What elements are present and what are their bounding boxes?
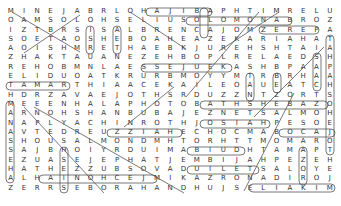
grid-letter[interactable]: Z [203,174,216,183]
grid-letter[interactable]: A [84,91,97,100]
grid-letter[interactable]: U [164,16,177,25]
grid-letter[interactable]: M [323,184,336,193]
grid-letter[interactable]: J [164,156,177,165]
grid-letter[interactable]: C [84,119,97,128]
grid-letter[interactable]: I [57,174,70,183]
grid-letter[interactable]: O [243,16,256,25]
grid-letter[interactable]: B [137,26,150,35]
grid-letter[interactable]: H [164,128,177,137]
grid-letter[interactable]: R [297,174,310,183]
grid-letter[interactable]: M [270,7,283,16]
grid-letter[interactable]: S [44,44,57,53]
grid-letter[interactable]: H [31,174,44,183]
grid-letter[interactable]: A [124,184,137,193]
grid-letter[interactable]: A [137,156,150,165]
grid-letter[interactable]: O [150,100,163,109]
grid-letter[interactable]: M [243,128,256,137]
grid-letter[interactable]: O [110,137,123,146]
grid-letter[interactable]: A [70,7,83,16]
grid-letter[interactable]: A [243,156,256,165]
grid-letter[interactable]: M [31,16,44,25]
grid-letter[interactable]: N [110,53,123,62]
grid-letter[interactable]: D [270,174,283,183]
grid-letter[interactable]: A [17,146,30,155]
grid-letter[interactable]: H [17,53,30,62]
grid-letter[interactable]: T [310,91,323,100]
grid-letter[interactable]: B [124,109,137,118]
grid-letter[interactable]: I [270,35,283,44]
grid-letter[interactable]: E [97,91,110,100]
grid-letter[interactable]: S [4,137,17,146]
grid-letter[interactable]: O [84,16,97,25]
grid-letter[interactable]: K [110,72,123,81]
grid-letter[interactable]: D [124,146,137,155]
grid-letter[interactable]: O [217,128,230,137]
grid-letter[interactable]: R [283,72,296,81]
grid-letter[interactable]: H [44,165,57,174]
grid-letter[interactable]: J [190,44,203,53]
grid-letter[interactable]: A [243,35,256,44]
grid-letter[interactable]: Z [110,128,123,137]
grid-letter[interactable]: M [4,100,17,109]
grid-letter[interactable]: A [4,44,17,53]
grid-letter[interactable]: A [283,184,296,193]
grid-letter[interactable]: E [44,128,57,137]
grid-letter[interactable]: O [17,44,30,53]
grid-letter[interactable]: A [297,100,310,109]
grid-letter[interactable]: O [323,100,336,109]
grid-letter[interactable]: L [203,81,216,90]
grid-letter[interactable]: E [97,44,110,53]
grid-letter[interactable]: Y [57,119,70,128]
grid-letter[interactable]: E [44,7,57,16]
grid-letter[interactable]: D [137,137,150,146]
grid-letter[interactable]: A [110,81,123,90]
grid-letter[interactable]: O [230,26,243,35]
grid-letter[interactable]: O [57,16,70,25]
grid-letter[interactable]: H [257,119,270,128]
grid-letter[interactable]: V [150,165,163,174]
grid-letter[interactable]: U [84,53,97,62]
grid-letter[interactable]: E [177,128,190,137]
grid-letter[interactable]: N [177,26,190,35]
grid-letter[interactable]: S [217,119,230,128]
grid-letter[interactable]: A [283,35,296,44]
grid-letter[interactable]: K [217,63,230,72]
grid-letter[interactable]: J [164,7,177,16]
grid-letter[interactable]: Z [323,16,336,25]
grid-letter[interactable]: R [4,63,17,72]
grid-letter[interactable]: E [124,53,137,62]
grid-letter[interactable]: U [137,72,150,81]
grid-letter[interactable]: A [70,137,83,146]
grid-letter[interactable]: B [84,184,97,193]
grid-letter[interactable]: A [297,63,310,72]
grid-letter[interactable]: O [310,109,323,118]
grid-letter[interactable]: H [124,44,137,53]
grid-letter[interactable]: E [150,44,163,53]
grid-letter[interactable]: A [124,81,137,90]
grid-letter[interactable]: H [230,100,243,109]
grid-letter[interactable]: S [70,26,83,35]
grid-letter[interactable]: H [164,35,177,44]
grid-letter[interactable]: E [243,53,256,62]
grid-letter[interactable]: O [230,81,243,90]
grid-letter[interactable]: H [57,44,70,53]
grid-letter[interactable]: E [150,81,163,90]
grid-letter[interactable]: S [257,109,270,118]
grid-letter[interactable]: B [44,146,57,155]
grid-letter[interactable]: M [4,7,17,16]
grid-letter[interactable]: L [137,16,150,25]
grid-letter[interactable]: O [137,35,150,44]
grid-letter[interactable]: E [57,165,70,174]
grid-letter[interactable]: O [297,165,310,174]
grid-letter[interactable]: J [137,174,150,183]
grid-letter[interactable]: E [44,100,57,109]
grid-letter[interactable]: H [150,91,163,100]
grid-letter[interactable]: J [31,146,44,155]
grid-letter[interactable]: J [230,156,243,165]
grid-letter[interactable]: K [177,174,190,183]
grid-letter[interactable]: A [17,81,30,90]
grid-letter[interactable]: T [150,156,163,165]
grid-letter[interactable]: A [190,174,203,183]
grid-letter[interactable]: C [190,128,203,137]
grid-letter[interactable]: A [150,7,163,16]
